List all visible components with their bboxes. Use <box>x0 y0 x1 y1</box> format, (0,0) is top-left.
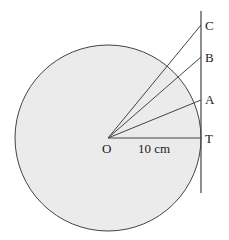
label-T: T <box>205 131 213 146</box>
label-B: B <box>205 50 214 65</box>
label-C: C <box>205 18 214 33</box>
label-A: A <box>205 92 215 107</box>
label-O: O <box>102 141 111 156</box>
geometry-figure: C B A T O 10 cm <box>0 0 229 240</box>
diagram: C B A T O 10 cm <box>0 0 229 240</box>
radius-label: 10 cm <box>138 141 170 156</box>
